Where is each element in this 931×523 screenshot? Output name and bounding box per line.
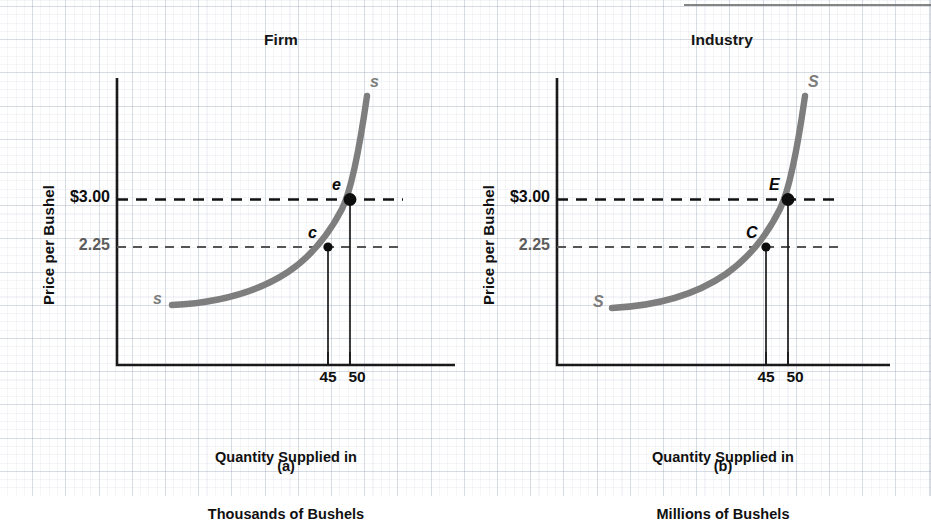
industry-sublabel: (b): [598, 458, 848, 474]
industry-x-axis-title-line2: Millions of Bushels: [598, 505, 848, 523]
panel-title-industry: Industry: [691, 31, 753, 49]
panel-industry-graphics: [557, 78, 890, 365]
industry-price-label-225: 2.25: [488, 236, 550, 254]
industry-point-label-c: C: [746, 224, 758, 242]
firm-x-axis-title-line2: Thousands of Bushels: [161, 505, 411, 523]
firm-point-label-c: c: [308, 224, 317, 242]
industry-point-label-e: E: [769, 176, 780, 194]
firm-curve-label-top: s: [370, 73, 379, 91]
panel-firm-graphics: [117, 78, 455, 365]
firm-sublabel: (a): [161, 458, 411, 474]
firm-point-e: [344, 193, 357, 206]
industry-point-c: [761, 242, 770, 251]
industry-axes: [557, 78, 890, 365]
firm-point-label-e: e: [332, 176, 341, 194]
industry-curve-label-top: S: [808, 73, 819, 91]
industry-point-e: [782, 193, 795, 206]
firm-curve-label-bottom: s: [153, 290, 162, 308]
industry-qty-label-50: 50: [775, 368, 815, 386]
firm-axes: [117, 78, 455, 365]
firm-qty-label-50: 50: [337, 368, 377, 386]
industry-price-label-300: $3.00: [488, 188, 550, 206]
firm-price-label-300: $3.00: [48, 188, 110, 206]
industry-supply-curve: [612, 96, 805, 308]
panel-title-firm: Firm: [264, 31, 298, 49]
industry-curve-label-bottom: S: [593, 293, 604, 311]
firm-point-c: [323, 242, 332, 251]
firm-price-label-225: 2.25: [48, 236, 110, 254]
